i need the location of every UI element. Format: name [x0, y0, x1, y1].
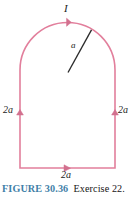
label-left-side-2a: 2a — [3, 105, 13, 115]
label-bottom-side-2a: 2a — [61, 170, 71, 180]
radius-line — [68, 30, 92, 73]
current-loop-wire — [20, 23, 115, 169]
figure-caption: FIGURE 30.36 Exercise 22. — [2, 183, 138, 195]
current-arrow-left-icon — [17, 110, 24, 116]
caption-exercise-text: Exercise 22. — [73, 183, 125, 194]
label-current-I: I — [64, 3, 68, 14]
label-right-side-2a: 2a — [118, 105, 128, 115]
figure-container: I a 2a 2a 2a FIGURE 30.36 Exercise 22. — [0, 0, 138, 203]
caption-figure-number: FIGURE 30.36 — [2, 183, 68, 194]
label-radius-a: a — [71, 41, 76, 50]
current-arrow-top-icon — [67, 18, 72, 26]
